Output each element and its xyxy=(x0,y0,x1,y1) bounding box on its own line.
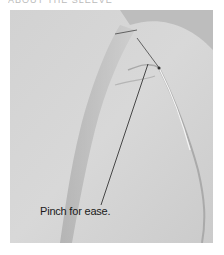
shoulder-photo: Pinch for ease. xyxy=(10,10,213,243)
cropped-header-text: ABOUT THE SLEEVE xyxy=(8,0,128,3)
caption-label: Pinch for ease. xyxy=(40,205,110,217)
